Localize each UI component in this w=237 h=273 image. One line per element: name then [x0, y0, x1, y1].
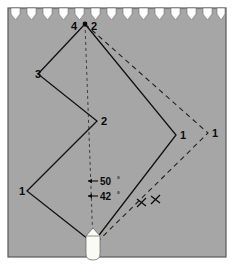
angle-label-50: 50	[100, 176, 112, 187]
angle-label-50-unit: °	[117, 176, 120, 183]
angle-label-42-unit: °	[117, 191, 120, 198]
waypoint-label-3: 3	[35, 68, 41, 80]
waypoint-label-1-right-dashed: 1	[212, 127, 218, 139]
diagram-canvas: 4 2 3 2 1 1 1 50 ° 42 °	[0, 0, 237, 273]
screenshot-root: 4 2 3 2 1 1 1 50 ° 42 °	[0, 0, 237, 273]
waypoint-label-1-left: 1	[19, 185, 25, 197]
diagram-plate	[8, 8, 226, 257]
waypoint-label-1-right-solid: 1	[180, 129, 186, 141]
waypoint-label-2-mid: 2	[101, 115, 107, 127]
hull-icon	[86, 236, 100, 260]
angle-label-42: 42	[100, 191, 112, 202]
tacking-diagram-figure: 4 2 3 2 1 1 1 50 ° 42 °	[0, 0, 237, 273]
waypoint-label-2-apex: 2	[91, 20, 97, 32]
apex-marker-dot	[83, 22, 88, 27]
waypoint-label-4: 4	[71, 20, 78, 32]
